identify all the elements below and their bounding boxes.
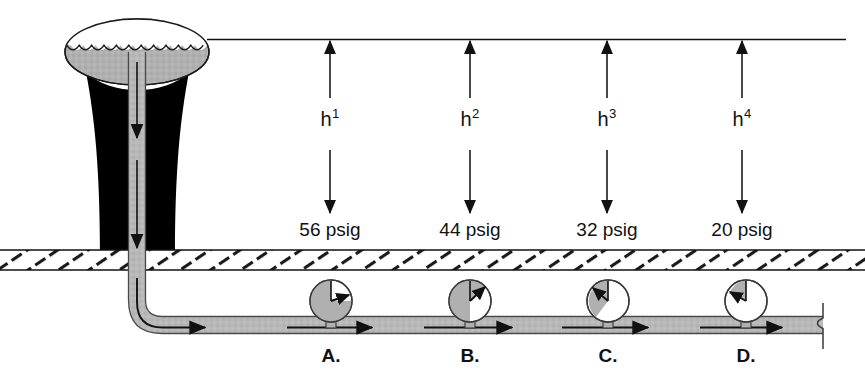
diagram-canvas <box>0 0 865 387</box>
gauge-caption-a: A. <box>322 345 341 367</box>
pressure-label-b: 44 psig <box>439 219 500 241</box>
water-tower-pressure-diagram: h1 h2 h3 h4 56 psig 44 psig 32 psig 20 p… <box>0 0 865 387</box>
gauge-caption-b: B. <box>461 345 480 367</box>
height-label-h3: h3 <box>598 108 617 131</box>
pipe-edge-inner <box>146 52 824 317</box>
gauge-caption-c: C. <box>599 345 618 367</box>
dimension-arrows <box>330 41 742 213</box>
height-label-h4: h4 <box>733 108 752 131</box>
pressure-label-d: 20 psig <box>711 219 772 241</box>
height-label-h2: h2 <box>461 108 480 131</box>
height-label-h1: h1 <box>321 108 340 131</box>
pressure-label-c: 32 psig <box>576 219 637 241</box>
pressure-label-a: 56 psig <box>299 219 360 241</box>
tank-air-space <box>67 19 207 50</box>
gauge-caption-d: D. <box>737 345 756 367</box>
